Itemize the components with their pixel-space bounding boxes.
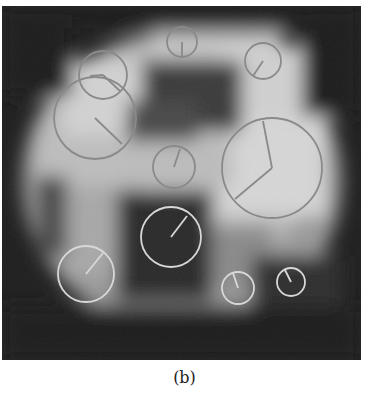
- orientation-line: [90, 75, 103, 76]
- blurred-image-with-keypoints: [2, 6, 361, 360]
- figure-caption: (b): [0, 368, 369, 387]
- keypoint-figure: [2, 6, 361, 360]
